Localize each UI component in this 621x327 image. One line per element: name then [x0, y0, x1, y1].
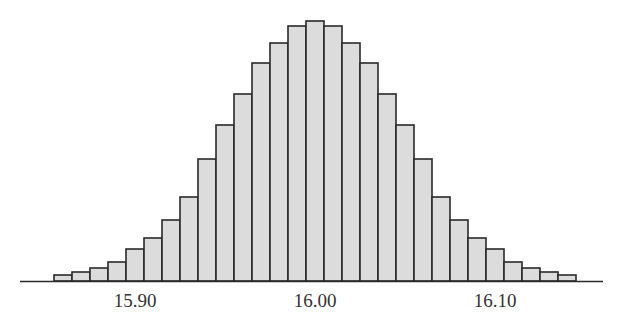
histogram-bar	[450, 220, 468, 281]
histogram-bar	[252, 63, 270, 281]
histogram-bar	[396, 125, 414, 281]
histogram-bar	[288, 26, 306, 281]
histogram-bar	[108, 262, 126, 281]
histogram-bar	[414, 159, 432, 281]
histogram-bar	[378, 94, 396, 281]
x-tick-label: 15.90	[114, 290, 157, 311]
histogram-bar	[306, 21, 324, 281]
histogram-bar	[540, 272, 558, 281]
histogram-bar	[234, 94, 252, 281]
histogram-bar	[54, 275, 72, 281]
x-tick-label: 16.00	[294, 290, 337, 311]
histogram-bar	[558, 275, 576, 281]
histogram-bar	[342, 43, 360, 281]
histogram-bars	[54, 21, 576, 281]
histogram-bar	[360, 63, 378, 281]
histogram-bar	[432, 197, 450, 281]
histogram-bar	[486, 249, 504, 281]
x-axis-tick-labels: 15.90 16.00 16.10	[114, 290, 517, 311]
histogram-bar	[324, 26, 342, 281]
histogram-bar	[180, 197, 198, 281]
histogram-bar	[198, 159, 216, 281]
histogram-bar	[522, 268, 540, 281]
histogram-bar	[90, 268, 108, 281]
histogram-bar	[270, 43, 288, 281]
histogram-bar	[504, 262, 522, 281]
x-tick-label: 16.10	[474, 290, 517, 311]
histogram-bar	[72, 272, 90, 281]
histogram-bar	[468, 238, 486, 281]
histogram-bar	[126, 249, 144, 281]
histogram-bar	[162, 220, 180, 281]
histogram-bar	[144, 238, 162, 281]
histogram-chart: 15.90 16.00 16.10	[0, 0, 621, 327]
histogram-bar	[216, 125, 234, 281]
